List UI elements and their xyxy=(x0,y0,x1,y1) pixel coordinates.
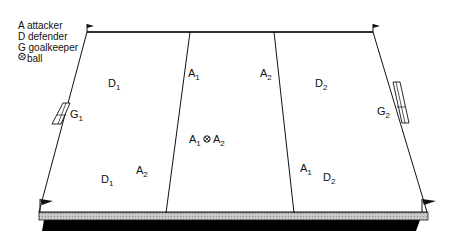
player-d2-bottom: D2 xyxy=(323,171,335,186)
player-a2-center: A2 xyxy=(213,133,225,148)
legend-item-defender: D defender xyxy=(18,31,78,42)
ball-icon xyxy=(204,136,210,142)
player-a1-center: A1 xyxy=(189,133,201,148)
corner-flag-icon xyxy=(87,24,94,32)
field-outline xyxy=(39,32,427,212)
legend: A attacker D defender G goalkeeper ball xyxy=(18,20,78,64)
player-d2-top: D2 xyxy=(315,77,327,92)
player-g1: G1 xyxy=(70,108,83,123)
legend-item-attacker: A attacker xyxy=(18,20,78,31)
field-diagram: A attacker D defender G goalkeeper ball … xyxy=(0,0,453,250)
player-a1-bottom: A1 xyxy=(300,162,312,177)
player-a2-top: A2 xyxy=(260,67,272,82)
player-d1-bottom: D1 xyxy=(101,173,113,188)
player-g2: G2 xyxy=(377,105,390,120)
player-a2-bottom: A2 xyxy=(136,164,148,179)
legend-item-goalkeeper: G goalkeeper xyxy=(18,42,78,53)
player-a1-top: A1 xyxy=(188,67,200,82)
field-edge-band xyxy=(39,212,428,220)
field-shadow xyxy=(42,220,420,231)
legend-item-ball: ball xyxy=(18,53,78,64)
player-d1-top: D1 xyxy=(108,77,120,92)
corner-flag-icon xyxy=(373,24,380,32)
